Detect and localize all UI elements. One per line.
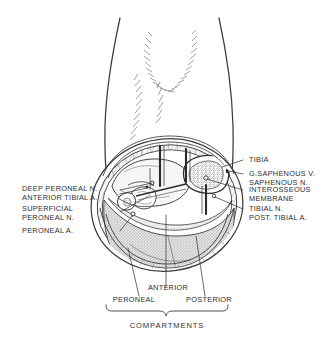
label-peroneal-artery: PERONEAL A.	[22, 227, 73, 236]
label-deep-peroneal-nerve: DEEP PERONEAL N. ANTERIOR TIBIAL A.	[22, 185, 98, 202]
compartment-label-peroneal: PERONEAL	[104, 296, 164, 305]
label-tibial-nerve: TIBIAL N. POST. TIBIAL A.	[249, 205, 307, 222]
popliteal-hatching	[130, 30, 197, 140]
label-anterior-tibial-artery: ANTERIOR TIBIAL A.	[22, 194, 98, 203]
anatomical-figure: DEEP PERONEAL N. ANTERIOR TIBIAL A. SUPE…	[0, 0, 332, 343]
label-peroneal-artery-line1: PERONEAL A.	[22, 227, 73, 236]
fibula	[118, 193, 136, 210]
label-superficial-peroneal-line2: PERONEAL N.	[22, 214, 74, 223]
label-superficial-peroneal-nerve: SUPERFICIAL PERONEAL N.	[22, 205, 74, 222]
compartment-label-anterior: ANTERIOR	[140, 284, 196, 293]
label-tibia-line1: TIBIA	[249, 156, 269, 165]
label-interosseous-membrane: INTEROSSEOUS MEMBRANE	[249, 186, 311, 203]
figure-caption: COMPARTMENTS	[108, 322, 226, 331]
label-interosseous-line2: MEMBRANE	[249, 195, 311, 204]
label-tibia: TIBIA	[249, 156, 269, 165]
compartment-label-posterior: POSTERIOR	[178, 296, 240, 305]
compartments-brace	[106, 305, 228, 316]
label-post-tibial-artery: POST. TIBIAL A.	[249, 214, 307, 223]
